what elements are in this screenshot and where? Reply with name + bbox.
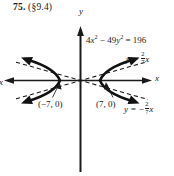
- axis-label-x-right: x: [155, 74, 159, 83]
- hyperbola-figure: 75. (§9.4): [0, 0, 174, 176]
- axis-label-x-left: x: [0, 78, 3, 87]
- asymptote-positive-variable: x: [145, 54, 149, 64]
- vertex-right-label: (7, 0): [96, 100, 116, 109]
- equation-middle-term: − 49: [98, 35, 117, 45]
- equation-right-side: = 196: [123, 35, 146, 45]
- vertex-leader-lines: [53, 82, 114, 98]
- asymptote-negative-label: y = −27x: [124, 101, 153, 115]
- vertex-left-label: (−7, 0): [38, 100, 63, 109]
- x-axis: [4, 77, 152, 84]
- asymptote-negative-lead: y = −: [124, 104, 145, 114]
- y-axis: [77, 26, 84, 172]
- coordinate-plot: [0, 0, 174, 176]
- asymptote-positive-lead: y =: [126, 54, 141, 64]
- axis-label-y: y: [79, 7, 83, 16]
- hyperbola-equation-label: 4x2 − 49y2 = 196: [86, 36, 146, 45]
- asymptote-negative-variable: x: [149, 104, 153, 114]
- asymptote-positive-label: y = 27x: [126, 51, 149, 65]
